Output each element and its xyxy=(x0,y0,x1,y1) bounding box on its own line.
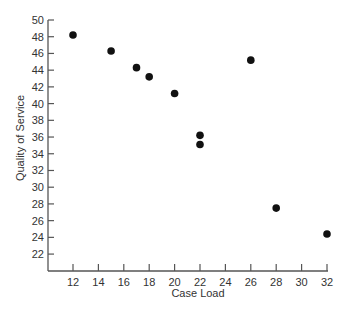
data-point xyxy=(247,56,255,64)
x-axis: 1214161820222426283032 xyxy=(48,264,333,288)
y-tick-label: 30 xyxy=(32,181,44,193)
y-axis-title: Quality of Service xyxy=(14,95,26,181)
y-tick-label: 22 xyxy=(32,248,44,260)
data-point xyxy=(69,31,77,39)
x-tick-label: 28 xyxy=(270,276,282,288)
y-tick-label: 36 xyxy=(32,131,44,143)
x-tick-label: 26 xyxy=(245,276,257,288)
data-point xyxy=(145,73,153,81)
scatter-chart: 222426283032343638404244464850 121416182… xyxy=(0,0,345,309)
data-point xyxy=(323,230,331,238)
x-tick-label: 12 xyxy=(67,276,79,288)
y-tick-label: 46 xyxy=(32,47,44,59)
x-tick-label: 14 xyxy=(92,276,104,288)
x-tick-label: 18 xyxy=(143,276,155,288)
y-tick-label: 40 xyxy=(32,98,44,110)
y-tick-label: 38 xyxy=(32,114,44,126)
x-axis-title: Case Load xyxy=(171,287,224,299)
data-point xyxy=(272,204,280,212)
y-tick-label: 24 xyxy=(32,231,44,243)
y-tick-label: 26 xyxy=(32,215,44,227)
x-tick-label: 32 xyxy=(321,276,333,288)
data-point xyxy=(196,141,204,149)
y-tick-label: 34 xyxy=(32,148,44,160)
y-tick-label: 42 xyxy=(32,81,44,93)
data-point xyxy=(196,132,204,140)
data-point xyxy=(133,64,141,72)
y-axis: 222426283032343638404244464850 xyxy=(32,14,54,271)
data-points xyxy=(69,31,331,238)
data-point xyxy=(107,47,115,55)
data-point xyxy=(171,90,179,98)
y-tick-label: 48 xyxy=(32,31,44,43)
y-tick-label: 50 xyxy=(32,14,44,26)
x-tick-label: 30 xyxy=(295,276,307,288)
x-tick-label: 16 xyxy=(118,276,130,288)
y-tick-label: 32 xyxy=(32,164,44,176)
y-tick-label: 44 xyxy=(32,64,44,76)
y-tick-label: 28 xyxy=(32,198,44,210)
